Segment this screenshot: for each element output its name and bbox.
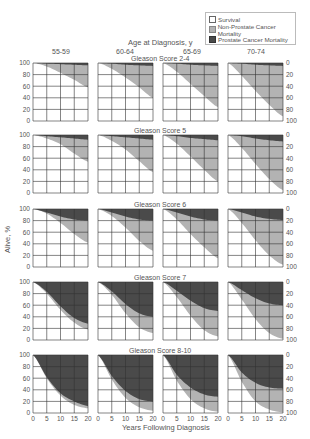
panel-4-0: [33, 355, 88, 413]
panel-2-0: [33, 209, 88, 267]
y-tick-right: 40: [286, 229, 294, 236]
y-tick-right: 60: [286, 386, 294, 393]
y-tick-left: 100: [19, 131, 30, 138]
y-tick-left: 40: [23, 166, 31, 173]
y-tick-right: 60: [286, 313, 294, 320]
panel-4-3: [228, 355, 283, 413]
panel-4-2: [163, 355, 218, 413]
x-tick: 5: [240, 415, 244, 422]
y-tick-right: 20: [286, 71, 294, 78]
y-tick-left: 80: [23, 71, 31, 78]
panel-2-1: [98, 209, 153, 267]
y-tick-right: 40: [286, 375, 294, 382]
x-tick: 0: [96, 415, 100, 422]
x-tick: 5: [45, 415, 49, 422]
y-tick-left: 80: [23, 363, 31, 370]
panel-3-2: [163, 282, 218, 340]
x-tick: 15: [201, 415, 209, 422]
y-tick-left: 100: [19, 351, 30, 358]
x-tick: 0: [226, 415, 230, 422]
y-tick-right: 100: [286, 117, 297, 124]
y-tick-left: 40: [23, 94, 31, 101]
y-tick-right: 100: [286, 189, 297, 196]
y-tick-left: 60: [23, 375, 31, 382]
y-tick-right: 80: [286, 325, 294, 332]
y-tick-right: 40: [286, 302, 294, 309]
y-tick-right: 80: [286, 252, 294, 259]
y-tick-right: 40: [286, 83, 294, 90]
panel-3-3: [228, 282, 283, 340]
y-tick-left: 80: [23, 217, 31, 224]
y-tick-left: 20: [23, 178, 31, 185]
panel-1-1: [98, 135, 153, 193]
panel-1-3: [228, 135, 283, 193]
y-tick-left: 0: [26, 117, 30, 124]
panel-3-1: [98, 282, 153, 340]
y-tick-right: 0: [286, 131, 290, 138]
chart-grid: 1008060402000204060801001008060402000204…: [0, 0, 310, 439]
y-tick-left: 20: [23, 106, 31, 113]
y-tick-right: 20: [286, 217, 294, 224]
y-tick-left: 0: [26, 409, 30, 416]
x-tick: 20: [279, 415, 287, 422]
y-tick-left: 40: [23, 240, 31, 247]
x-tick: 10: [252, 415, 260, 422]
x-tick: 10: [57, 415, 65, 422]
y-tick-left: 40: [23, 386, 31, 393]
panel-0-0: [33, 63, 88, 121]
y-tick-right: 40: [286, 155, 294, 162]
x-tick: 0: [161, 415, 165, 422]
y-tick-right: 20: [286, 290, 294, 297]
panel-0-2: [163, 63, 218, 121]
y-tick-left: 60: [23, 302, 31, 309]
y-tick-left: 100: [19, 205, 30, 212]
x-tick: 5: [110, 415, 114, 422]
panel-1-0: [33, 135, 88, 193]
y-tick-right: 80: [286, 178, 294, 185]
y-tick-left: 100: [19, 278, 30, 285]
y-tick-left: 20: [23, 398, 31, 405]
y-tick-right: 100: [286, 336, 297, 343]
y-tick-right: 20: [286, 363, 294, 370]
x-tick: 15: [136, 415, 144, 422]
x-tick: 5: [175, 415, 179, 422]
y-tick-right: 60: [286, 166, 294, 173]
x-tick: 10: [187, 415, 195, 422]
x-tick: 0: [31, 415, 35, 422]
y-tick-right: 20: [286, 143, 294, 150]
panel-0-1: [98, 63, 153, 121]
y-tick-right: 100: [286, 409, 297, 416]
x-tick: 15: [71, 415, 79, 422]
panel-2-2: [163, 209, 218, 267]
y-tick-left: 0: [26, 263, 30, 270]
y-tick-left: 20: [23, 252, 31, 259]
x-tick: 15: [266, 415, 274, 422]
y-tick-left: 60: [23, 155, 31, 162]
x-tick: 20: [149, 415, 157, 422]
y-tick-left: 60: [23, 83, 31, 90]
panel-1-2: [163, 135, 218, 193]
y-tick-right: 0: [286, 59, 290, 66]
y-tick-right: 0: [286, 205, 290, 212]
y-tick-right: 100: [286, 263, 297, 270]
y-tick-right: 0: [286, 351, 290, 358]
panel-0-3: [228, 63, 283, 121]
y-tick-left: 0: [26, 336, 30, 343]
x-tick: 20: [214, 415, 222, 422]
x-tick: 10: [122, 415, 130, 422]
y-tick-right: 80: [286, 106, 294, 113]
y-tick-left: 20: [23, 325, 31, 332]
panel-3-0: [33, 282, 88, 340]
y-tick-right: 80: [286, 398, 294, 405]
panel-4-1: [98, 355, 153, 413]
y-tick-left: 80: [23, 143, 31, 150]
y-tick-left: 80: [23, 290, 31, 297]
x-tick: 20: [84, 415, 92, 422]
y-tick-right: 60: [286, 94, 294, 101]
y-tick-left: 0: [26, 189, 30, 196]
y-tick-right: 0: [286, 278, 290, 285]
y-tick-left: 100: [19, 59, 30, 66]
y-tick-left: 40: [23, 313, 31, 320]
y-tick-left: 60: [23, 229, 31, 236]
y-tick-right: 60: [286, 240, 294, 247]
